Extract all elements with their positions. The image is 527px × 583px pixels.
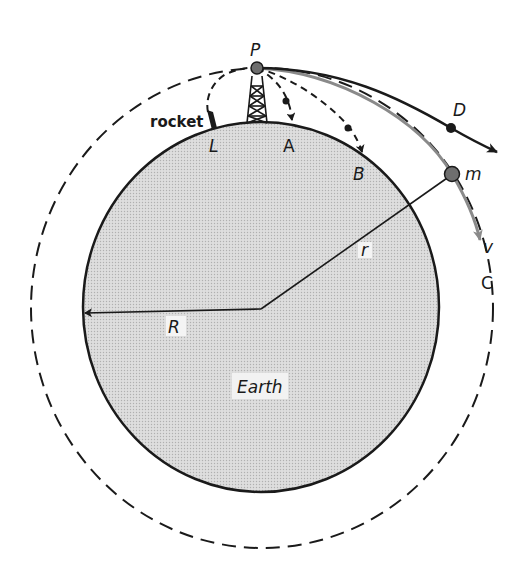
label-P: P (250, 40, 261, 60)
label-m: m (465, 164, 482, 184)
label-C: C (481, 273, 493, 293)
label-earth: Earth (237, 377, 283, 397)
label-R: R (168, 317, 180, 337)
launch-tower-icon (247, 76, 267, 123)
rocket-icon (207, 110, 217, 130)
label-A: A (283, 136, 295, 156)
orbit-diagram: P rocket L A B D m v C r R Earth (0, 0, 527, 583)
earth-body (83, 122, 439, 492)
label-D: D (453, 100, 466, 120)
projectile-dot-A (283, 98, 290, 105)
projectile-dot-B (345, 125, 352, 132)
launch-point-dot (251, 62, 263, 74)
label-rocket: rocket (150, 113, 204, 131)
label-v: v (483, 237, 494, 257)
label-L: L (209, 136, 218, 156)
mass-m-dot (445, 167, 460, 182)
label-r: r (361, 240, 369, 260)
label-B: B (353, 164, 365, 184)
diagram-canvas: P rocket L A B D m v C r R Earth (0, 0, 527, 583)
escape-point-dot (446, 123, 456, 133)
